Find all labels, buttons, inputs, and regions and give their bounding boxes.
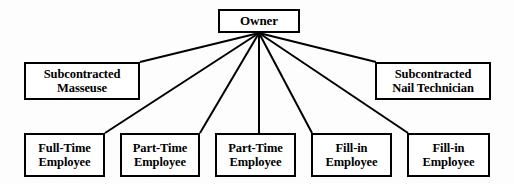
node-subcontracted-nail-technician-label-2: Nail Technician [392,81,474,96]
edge-owner-to-fill-in-employee-1 [259,33,312,133]
node-fill-in-employee-2-label-2: Employee [423,155,475,170]
node-subcontracted-nail-technician[interactable]: Subcontracted Nail Technician [375,62,491,100]
node-subcontracted-masseuse-label-2: Masseuse [57,81,107,96]
node-fill-in-employee-2[interactable]: Fill-in Employee [407,133,490,177]
node-full-time-employee-label-1: Full-Time [38,141,90,156]
node-fill-in-employee-1-label-1: Fill-in [336,141,368,156]
node-part-time-employee-2[interactable]: Part-Time Employee [215,133,296,177]
node-owner[interactable]: Owner [218,9,300,33]
edge-owner-to-part-time-employee-1 [200,33,259,133]
node-fill-in-employee-1[interactable]: Fill-in Employee [311,133,392,177]
node-part-time-employee-1-label-2: Employee [134,155,186,170]
edge-owner-to-subcontracted-masseuse [140,33,259,62]
node-part-time-employee-1-label-1: Part-Time [133,141,187,156]
edge-owner-to-subcontracted-nail-technician [259,33,376,62]
node-part-time-employee-2-label-1: Part-Time [228,141,282,156]
node-subcontracted-masseuse-label-1: Subcontracted [44,67,120,82]
node-fill-in-employee-1-label-2: Employee [326,155,378,170]
node-part-time-employee-1[interactable]: Part-Time Employee [120,133,200,177]
node-full-time-employee[interactable]: Full-Time Employee [24,133,105,177]
node-subcontracted-masseuse[interactable]: Subcontracted Masseuse [24,62,140,100]
node-fill-in-employee-2-label-1: Fill-in [433,141,465,156]
org-chart-diagram: Owner Subcontracted Masseuse Subcontract… [0,0,514,184]
node-owner-label-1: Owner [240,13,278,28]
node-part-time-employee-2-label-2: Employee [230,155,282,170]
node-full-time-employee-label-2: Employee [39,155,91,170]
node-subcontracted-nail-technician-label-1: Subcontracted [395,67,471,82]
